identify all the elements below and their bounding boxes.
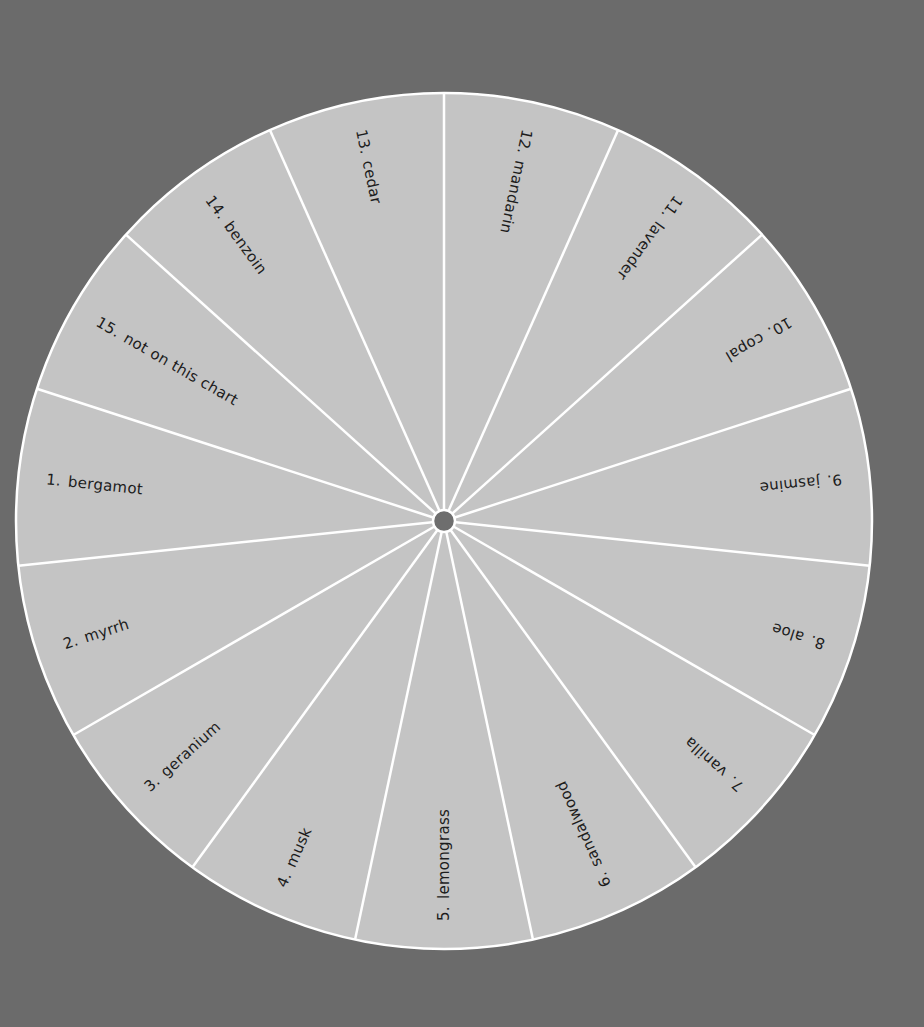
center-hub <box>433 510 455 532</box>
scent-wheel-diagram: 12.mandarin11.lavender10.copal9.jasmine8… <box>0 0 924 1027</box>
segment-number: 1. <box>45 470 62 489</box>
scent-wheel: 12.mandarin11.lavender10.copal9.jasmine8… <box>0 0 924 1027</box>
segment-name: lemongrass <box>435 809 453 899</box>
segment-number: 5. <box>435 906 453 921</box>
segment-number: 9. <box>826 471 843 490</box>
